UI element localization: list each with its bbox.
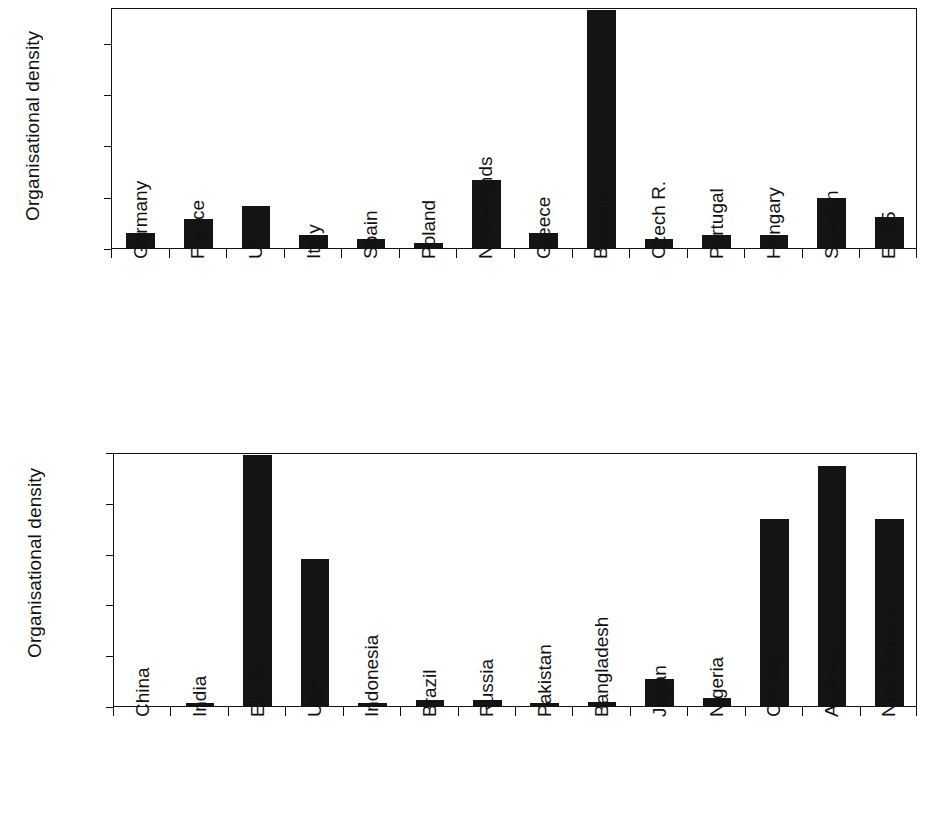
y-tick-mark bbox=[104, 146, 111, 147]
chart-top: Organisational density 04080120160 Germa… bbox=[0, 0, 940, 400]
x-tick-label: Indonesia bbox=[362, 635, 381, 717]
y-tick-mark bbox=[106, 453, 113, 454]
chart-bottom: Organisational density 048121620 ChinaIn… bbox=[0, 420, 940, 815]
x-tick-mark bbox=[687, 707, 688, 716]
bar-series-bottom bbox=[114, 454, 916, 706]
x-tick-mark bbox=[572, 249, 573, 258]
x-tick-mark bbox=[572, 707, 573, 716]
y-tick-mark bbox=[104, 44, 111, 45]
x-tick-label: Brazil bbox=[419, 669, 438, 717]
x-tick-mark bbox=[514, 249, 515, 258]
y-axis-ticks-bottom: 048121620 bbox=[0, 420, 105, 815]
x-tick-mark bbox=[745, 707, 746, 716]
x-tick-mark bbox=[859, 249, 860, 258]
x-tick-label: Portugal bbox=[706, 188, 725, 259]
x-tick-mark bbox=[916, 249, 917, 258]
x-tick-mark bbox=[169, 249, 170, 258]
y-tick-mark bbox=[106, 504, 113, 505]
x-tick-mark bbox=[343, 707, 344, 716]
x-tick-label: Pakistan bbox=[534, 644, 553, 717]
x-tick-mark bbox=[228, 707, 229, 716]
x-tick-mark bbox=[630, 707, 631, 716]
x-tick-mark bbox=[399, 249, 400, 258]
x-tick-label: Canada bbox=[764, 650, 783, 717]
x-tick-label: EU25 bbox=[879, 211, 898, 259]
x-tick-mark bbox=[629, 249, 630, 258]
y-tick-mark bbox=[104, 198, 111, 199]
x-tick-mark bbox=[802, 249, 803, 258]
x-tick-label: China bbox=[132, 667, 151, 717]
x-tick-mark bbox=[456, 249, 457, 258]
x-tick-label: Spain bbox=[361, 210, 380, 259]
x-tick-label: Italy bbox=[303, 224, 322, 259]
x-tick-label: India bbox=[190, 676, 209, 717]
x-tick-mark bbox=[113, 707, 114, 716]
x-tick-label: EU 25 bbox=[247, 664, 266, 717]
x-tick-mark bbox=[860, 707, 861, 716]
x-tick-mark bbox=[744, 249, 745, 258]
x-tick-label: Netherlands bbox=[476, 157, 495, 259]
y-tick-mark bbox=[104, 249, 111, 250]
x-tick-label: Sweden bbox=[821, 190, 840, 259]
x-tick-label: Nigeria bbox=[707, 657, 726, 717]
plot-area-bottom bbox=[113, 453, 917, 707]
x-tick-label: Poland bbox=[418, 200, 437, 259]
x-tick-label: Belgium bbox=[591, 190, 610, 259]
x-tick-mark bbox=[170, 707, 171, 716]
x-tick-mark bbox=[458, 707, 459, 716]
x-tick-mark bbox=[285, 707, 286, 716]
y-tick-mark bbox=[104, 95, 111, 96]
x-tick-label: USA bbox=[305, 678, 324, 717]
x-tick-label: New Zealand bbox=[879, 605, 898, 717]
y-tick-mark bbox=[106, 555, 113, 556]
y-tick-mark bbox=[106, 656, 113, 657]
x-tick-mark bbox=[341, 249, 342, 258]
x-tick-label: UK bbox=[245, 233, 264, 259]
x-tick-mark bbox=[687, 249, 688, 258]
x-tick-mark bbox=[515, 707, 516, 716]
x-tick-label: Russia bbox=[477, 659, 496, 717]
x-tick-label: Hungary bbox=[764, 187, 783, 259]
x-tick-label: Greece bbox=[533, 197, 552, 259]
x-tick-mark bbox=[802, 707, 803, 716]
x-tick-label: Japan bbox=[649, 665, 668, 717]
x-tick-mark bbox=[284, 249, 285, 258]
x-tick-mark bbox=[226, 249, 227, 258]
x-tick-label: France bbox=[188, 200, 207, 259]
y-axis-ticks-top: 04080120160 bbox=[0, 0, 103, 400]
x-tick-mark bbox=[111, 249, 112, 258]
y-tick-mark bbox=[106, 605, 113, 606]
bar-series-top bbox=[112, 9, 916, 248]
x-tick-mark bbox=[400, 707, 401, 716]
x-tick-label: Germany bbox=[130, 181, 149, 259]
y-tick-mark bbox=[106, 707, 113, 708]
x-tick-label: Czech R. bbox=[648, 181, 667, 259]
x-tick-label: Bangladesh bbox=[592, 617, 611, 717]
plot-area-top bbox=[111, 8, 917, 249]
x-tick-label: Australia bbox=[821, 643, 840, 717]
x-tick-mark bbox=[916, 707, 917, 716]
